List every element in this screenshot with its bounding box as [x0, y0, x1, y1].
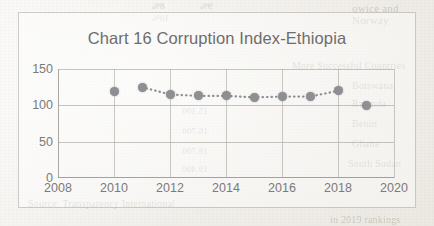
- bleed-text: in 2019 rankings: [330, 214, 400, 225]
- x-axis-tick-label: 2010: [100, 181, 128, 195]
- y-axis: 050100150: [19, 69, 53, 178]
- data-point[interactable]: [362, 101, 371, 110]
- x-axis-tick-label: 2012: [156, 181, 184, 195]
- chart-title: Chart 16 Corruption Index-Ethiopia: [19, 29, 415, 48]
- x-axis-tick-label: 2020: [380, 181, 408, 195]
- gridline-vertical: [114, 69, 115, 178]
- x-axis-tick-label: 2014: [212, 181, 240, 195]
- data-point[interactable]: [222, 91, 231, 100]
- y-axis-tick-label: 100: [19, 98, 53, 112]
- bleed-text: 9%: [200, 1, 212, 11]
- chart-object[interactable]: Chart 16 Corruption Index-Ethiopia 05010…: [18, 12, 416, 208]
- x-axis: 2008201020122014201620182020: [58, 181, 394, 201]
- gridline-vertical: [394, 69, 395, 178]
- data-point[interactable]: [278, 92, 287, 101]
- data-point[interactable]: [166, 90, 175, 99]
- data-point[interactable]: [334, 86, 343, 95]
- x-axis-tick-label: 2008: [44, 181, 72, 195]
- bleed-text: 8%: [152, 1, 164, 11]
- data-point[interactable]: [250, 93, 259, 102]
- gridline-vertical: [282, 69, 283, 178]
- gridline-vertical: [226, 69, 227, 178]
- data-point[interactable]: [194, 91, 203, 100]
- gridline-vertical: [170, 69, 171, 178]
- plot-area: [58, 69, 394, 178]
- data-point[interactable]: [306, 92, 315, 101]
- scanned-page: owice andNorway8%9%10%More Successful Co…: [0, 0, 434, 226]
- y-axis-tick-label: 150: [19, 62, 53, 76]
- y-axis-tick-label: 50: [19, 135, 53, 149]
- x-axis-tick-label: 2016: [268, 181, 296, 195]
- data-point[interactable]: [110, 87, 119, 96]
- x-axis-tick-label: 2018: [324, 181, 352, 195]
- data-point[interactable]: [138, 83, 147, 92]
